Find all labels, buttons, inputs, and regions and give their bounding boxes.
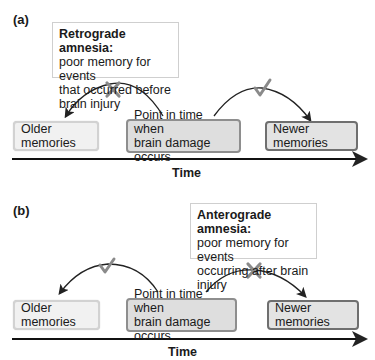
callout-title: Retrograde amnesia: xyxy=(59,27,172,55)
time-axis-label: Time xyxy=(172,166,201,180)
brain-damage-point-box: Point in time when brain damage occurs xyxy=(126,119,241,153)
time-axis-label: Time xyxy=(168,345,197,359)
brain-damage-point-box: Point in time when brain damage occurs xyxy=(126,298,237,332)
box-label: Newer memories xyxy=(275,301,351,329)
newer-memories-box: Newer memories xyxy=(265,121,358,151)
newer-memories-box: Newer memories xyxy=(267,300,359,330)
check-icon xyxy=(100,259,114,272)
box-label: Point in time when xyxy=(134,108,233,136)
callout-line: poor memory for events xyxy=(197,236,310,264)
callout-line: occurring after brain xyxy=(197,264,310,278)
box-label: Newer memories xyxy=(273,122,350,150)
older-memories-box: Older memories xyxy=(13,300,100,330)
older-memories-box: Older memories xyxy=(13,121,99,151)
box-label: Point in time when xyxy=(134,287,229,315)
retrograde-callout: Retrograde amnesia: poor memory for even… xyxy=(52,22,179,78)
callout-line: that occurred before xyxy=(59,83,172,97)
callout-line: poor memory for events xyxy=(59,55,172,83)
box-label: brain damage occurs xyxy=(134,315,229,343)
box-label: Older memories xyxy=(21,122,91,150)
callout-title: Anterograde amnesia: xyxy=(197,208,310,236)
panel-label-a: (a) xyxy=(13,12,29,27)
box-label: Older memories xyxy=(21,301,92,329)
box-label: brain damage occurs xyxy=(134,136,233,164)
panel-label-b: (b) xyxy=(13,203,30,218)
anterograde-callout: Anterograde amnesia: poor memory for eve… xyxy=(190,203,317,259)
